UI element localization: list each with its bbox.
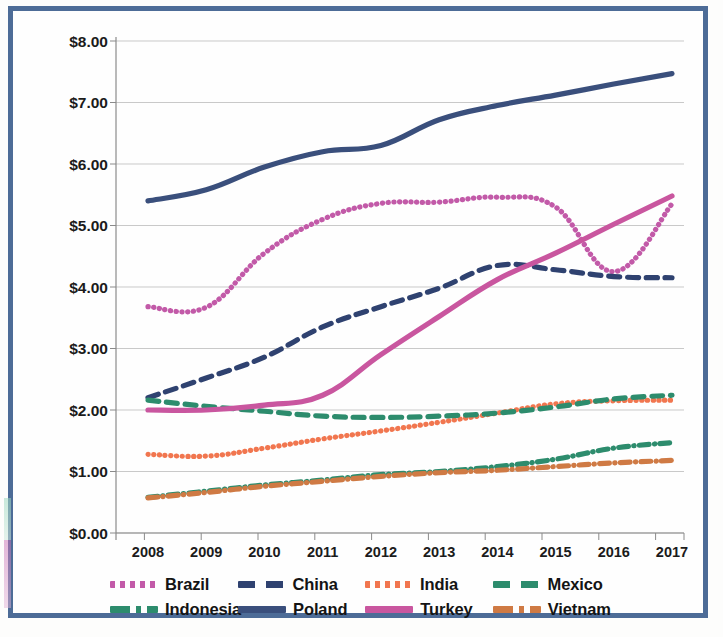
y-tick-label: $0.00 xyxy=(69,525,108,542)
x-tick-label: 2015 xyxy=(539,544,571,560)
legend-item-brazil: Brazil xyxy=(110,575,238,594)
x-tick-label: 2014 xyxy=(481,544,513,560)
x-tick-label: 2012 xyxy=(365,544,397,560)
y-tick-label: $3.00 xyxy=(69,340,108,357)
gridlines xyxy=(116,41,684,533)
x-axis-tick-labels: 2008200920102011201220132014201520162017 xyxy=(132,533,688,560)
legend-swatch-indonesia xyxy=(110,606,158,613)
series-line-china xyxy=(148,264,672,397)
x-tick-label: 2011 xyxy=(307,544,338,560)
x-tick-label: 2016 xyxy=(598,544,630,560)
y-tick-label: $5.00 xyxy=(69,217,108,234)
x-tick-label: 2008 xyxy=(132,544,164,560)
legend-swatch-china xyxy=(238,581,286,588)
x-tick-label: 2013 xyxy=(423,544,455,560)
chart-legend: BrazilChinaIndiaMexico IndonesiaPolandTu… xyxy=(110,572,620,622)
legend-swatch-vietnam xyxy=(493,606,541,613)
legend-row-1: BrazilChinaIndiaMexico xyxy=(110,572,620,597)
x-tick-label: 2010 xyxy=(248,544,280,560)
legend-label-vietnam: Vietnam xyxy=(548,600,611,619)
legend-item-turkey: Turkey xyxy=(365,600,492,619)
y-tick-label: $7.00 xyxy=(69,94,108,111)
legend-item-poland: Poland xyxy=(238,600,365,619)
series-line-poland xyxy=(148,74,672,201)
legend-swatch-india xyxy=(365,581,413,588)
legend-swatch-mexico xyxy=(493,581,541,588)
legend-swatch-turkey xyxy=(365,606,413,613)
legend-swatch-brazil xyxy=(110,581,158,588)
legend-label-poland: Poland xyxy=(293,600,347,619)
series-line-turkey xyxy=(148,196,672,410)
series-line-vietnam xyxy=(148,460,672,498)
x-tick-label: 2017 xyxy=(656,544,688,560)
scanned-page: $0.00$1.00$2.00$3.00$4.00$5.00$6.00$7.00… xyxy=(0,0,723,637)
series-line-brazil xyxy=(148,197,672,312)
legend-row-2: IndonesiaPolandTurkeyVietnam xyxy=(110,597,620,622)
y-tick-label: $4.00 xyxy=(69,279,108,296)
y-tick-label: $8.00 xyxy=(69,33,108,50)
legend-label-mexico: Mexico xyxy=(548,575,603,594)
line-chart: $0.00$1.00$2.00$3.00$4.00$5.00$6.00$7.00… xyxy=(0,0,723,637)
legend-label-india: India xyxy=(420,575,458,594)
legend-item-china: China xyxy=(238,575,366,594)
legend-label-brazil: Brazil xyxy=(165,575,209,594)
legend-label-china: China xyxy=(293,575,338,594)
legend-label-indonesia: Indonesia xyxy=(165,600,241,619)
y-axis-tick-labels: $0.00$1.00$2.00$3.00$4.00$5.00$6.00$7.00… xyxy=(69,33,116,542)
y-tick-label: $6.00 xyxy=(69,156,108,173)
data-series-group xyxy=(148,74,672,498)
legend-item-vietnam: Vietnam xyxy=(493,600,620,619)
legend-item-mexico: Mexico xyxy=(493,575,621,594)
legend-swatch-poland xyxy=(238,606,286,613)
legend-item-indonesia: Indonesia xyxy=(110,600,238,619)
legend-label-turkey: Turkey xyxy=(420,600,472,619)
x-tick-label: 2009 xyxy=(190,544,222,560)
legend-item-india: India xyxy=(365,575,493,594)
y-tick-label: $1.00 xyxy=(69,463,108,480)
y-tick-label: $2.00 xyxy=(69,402,108,419)
